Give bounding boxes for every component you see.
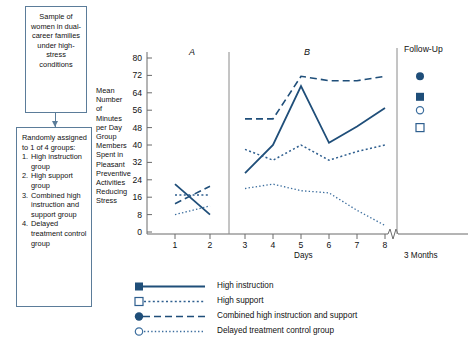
legend: High instruction High support Combined h… [133, 279, 373, 339]
legend-item-high-instruction: High instruction [133, 279, 373, 294]
x-axis-label: Days [294, 251, 313, 260]
followup-marker-high-instruction-filled-square [416, 93, 424, 101]
open-circle-marker-icon [135, 328, 142, 335]
legend-key-delayed-treatment-control [133, 324, 211, 339]
followup-marker-high-support-open-square [416, 124, 424, 132]
legend-label: Delayed treatment control group [217, 326, 334, 335]
open-square-marker-icon [135, 298, 143, 306]
x-tick-label: 2 [204, 240, 216, 250]
legend-label: High instruction [217, 281, 273, 290]
y-tick-label: 40 [128, 140, 142, 150]
x-tick-label: 7 [351, 240, 363, 250]
legend-item-delayed-treatment-control: Delayed treatment control group [133, 324, 373, 339]
series-delayed-treatment-control-group [175, 184, 385, 225]
legend-key-high-instruction [133, 279, 211, 294]
y-tick-label: 56 [128, 105, 142, 115]
x-axis-ticks [175, 234, 385, 239]
panel-label-a: A [189, 47, 195, 57]
y-axis-ticks [147, 58, 152, 232]
followup-marker-combined-filled-circle [416, 72, 424, 80]
legend-item-high-support: High support [133, 294, 373, 309]
y-tick-label: 8 [128, 210, 142, 220]
followup-x-tick-label: 3 Months [404, 251, 438, 260]
x-tick-label: 6 [323, 240, 335, 250]
panel-label-b: B [304, 47, 310, 57]
panel-label-followup: Follow-Up [404, 44, 443, 54]
legend-key-combined [133, 309, 211, 324]
y-tick-label: 32 [128, 157, 142, 167]
y-tick-label: 72 [128, 70, 142, 80]
x-tick-label: 5 [295, 240, 307, 250]
x-tick-label: 4 [267, 240, 279, 250]
y-tick-label: 0 [128, 227, 142, 237]
x-tick-label: 3 [239, 240, 251, 250]
x-tick-label: 1 [169, 240, 181, 250]
legend-key-high-support [133, 294, 211, 309]
filled-circle-marker-icon [135, 312, 143, 320]
y-tick-label: 16 [128, 192, 142, 202]
y-tick-label: 80 [128, 53, 142, 63]
legend-item-combined: Combined high instruction and support [133, 309, 373, 324]
series-combined-high-instruction-and-support [175, 76, 385, 203]
followup-marker-control-open-circle [416, 107, 423, 114]
legend-label: Combined high instruction and support [217, 311, 357, 320]
legend-label: High support [217, 296, 263, 305]
followup-markers [416, 72, 424, 131]
y-tick-label: 64 [128, 88, 142, 98]
x-tick-label: 8 [379, 240, 391, 250]
y-tick-label: 24 [128, 175, 142, 185]
y-tick-label: 48 [128, 123, 142, 133]
